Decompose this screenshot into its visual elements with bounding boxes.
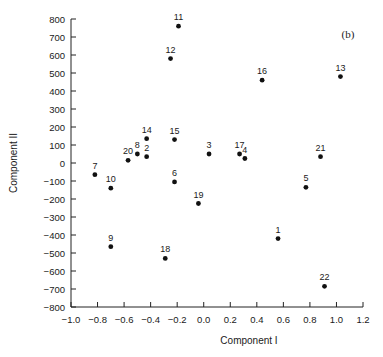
point-marker: [108, 244, 113, 249]
point-marker: [108, 186, 113, 191]
y-tick-label: 0: [60, 158, 65, 169]
x-tick-label: 0.2: [224, 314, 237, 325]
point-marker: [172, 180, 177, 185]
point-label: 16: [257, 66, 267, 76]
scatter-chart: −1.0−0.8−0.6−0.4−0.20.00.20.40.60.81.01.…: [0, 0, 383, 357]
y-tick-label: −600: [44, 266, 65, 277]
point-label: 7: [92, 161, 97, 171]
point-marker: [135, 152, 140, 157]
point-label: 1: [276, 225, 281, 235]
point-label: 18: [160, 244, 170, 254]
x-tick-label: 0.4: [250, 314, 263, 325]
point-label: 9: [108, 233, 113, 243]
point-marker: [172, 137, 177, 142]
point-marker: [260, 78, 265, 83]
point-label: 20: [123, 146, 133, 156]
data-point: 1: [276, 225, 281, 241]
point-marker: [322, 284, 327, 289]
y-tick-label: 100: [49, 140, 65, 151]
data-point: 12: [166, 45, 176, 61]
point-label: 3: [207, 140, 212, 150]
x-tick-label: 0.8: [303, 314, 316, 325]
x-tick-label: −0.6: [115, 314, 134, 325]
data-point: 15: [170, 126, 180, 142]
x-tick-label: −1.0: [62, 314, 81, 325]
x-tick-label: −0.4: [141, 314, 160, 325]
data-point: 7: [92, 161, 97, 177]
point-marker: [338, 74, 343, 79]
x-axis-title: Component I: [220, 335, 277, 346]
point-label: 17: [235, 140, 245, 150]
y-tick-label: −400: [44, 230, 65, 241]
y-tick-label: −300: [44, 212, 65, 223]
data-point: 13: [335, 63, 345, 79]
point-marker: [144, 154, 149, 159]
y-axis-title: Component II: [8, 133, 19, 193]
data-point: 6: [172, 168, 177, 184]
panel-label: (b): [342, 28, 355, 41]
y-tick-label: 800: [49, 14, 65, 25]
x-tick-label: −0.8: [88, 314, 107, 325]
y-tick-label: −700: [44, 284, 65, 295]
point-label: 10: [106, 174, 116, 184]
data-point: 22: [320, 272, 330, 288]
point-marker: [126, 158, 131, 163]
x-tick-label: 0.6: [277, 314, 290, 325]
data-point: 20: [123, 146, 133, 162]
point-label: 11: [174, 12, 183, 22]
point-marker: [163, 256, 168, 261]
point-marker: [176, 24, 181, 29]
data-point: 21: [316, 143, 326, 159]
data-point: 8: [135, 140, 140, 156]
data-point: 9: [108, 233, 113, 249]
point-marker: [318, 154, 323, 159]
point-label: 8: [135, 140, 140, 150]
y-tick-label: 600: [49, 50, 65, 61]
data-point: 5: [303, 173, 308, 189]
point-marker: [144, 136, 149, 141]
data-point: 11: [174, 12, 183, 28]
x-tick-label: −0.2: [168, 314, 187, 325]
y-tick-label: −500: [44, 248, 65, 259]
point-marker: [237, 152, 242, 157]
point-marker: [304, 185, 309, 190]
point-marker: [207, 152, 212, 157]
y-tick-label: −200: [44, 194, 65, 205]
y-tick-label: 700: [49, 32, 65, 43]
y-tick-label: 200: [49, 122, 65, 133]
point-marker: [168, 56, 173, 61]
data-point: 2: [144, 143, 149, 159]
x-tick-label: 1.2: [356, 314, 369, 325]
x-tick-label: 0.0: [197, 314, 210, 325]
data-point: 19: [193, 190, 203, 206]
data-point: 18: [160, 244, 170, 260]
data-point: 10: [106, 174, 116, 190]
y-tick-label: 300: [49, 104, 65, 115]
point-label: 21: [316, 143, 326, 153]
point-label: 15: [170, 126, 180, 136]
point-label: 5: [303, 173, 308, 183]
point-marker: [276, 236, 281, 241]
point-label: 13: [335, 63, 345, 73]
point-marker: [196, 201, 201, 206]
data-point: 14: [142, 125, 152, 141]
point-marker: [242, 156, 247, 161]
x-tick-label: 1.0: [330, 314, 343, 325]
y-tick-label: 500: [49, 68, 65, 79]
point-label: 6: [172, 168, 177, 178]
y-tick-label: −800: [44, 302, 65, 313]
y-tick-label: −100: [44, 176, 65, 187]
point-label: 12: [166, 45, 176, 55]
point-label: 19: [193, 190, 203, 200]
point-label: 14: [142, 125, 152, 135]
point-marker: [92, 172, 97, 177]
data-point: 16: [257, 66, 267, 82]
data-point: 3: [207, 140, 212, 156]
data-points: 12345678910111213141516171819202122: [92, 12, 345, 288]
point-label: 22: [320, 272, 330, 282]
y-tick-label: 400: [49, 86, 65, 97]
point-label: 2: [144, 143, 149, 153]
